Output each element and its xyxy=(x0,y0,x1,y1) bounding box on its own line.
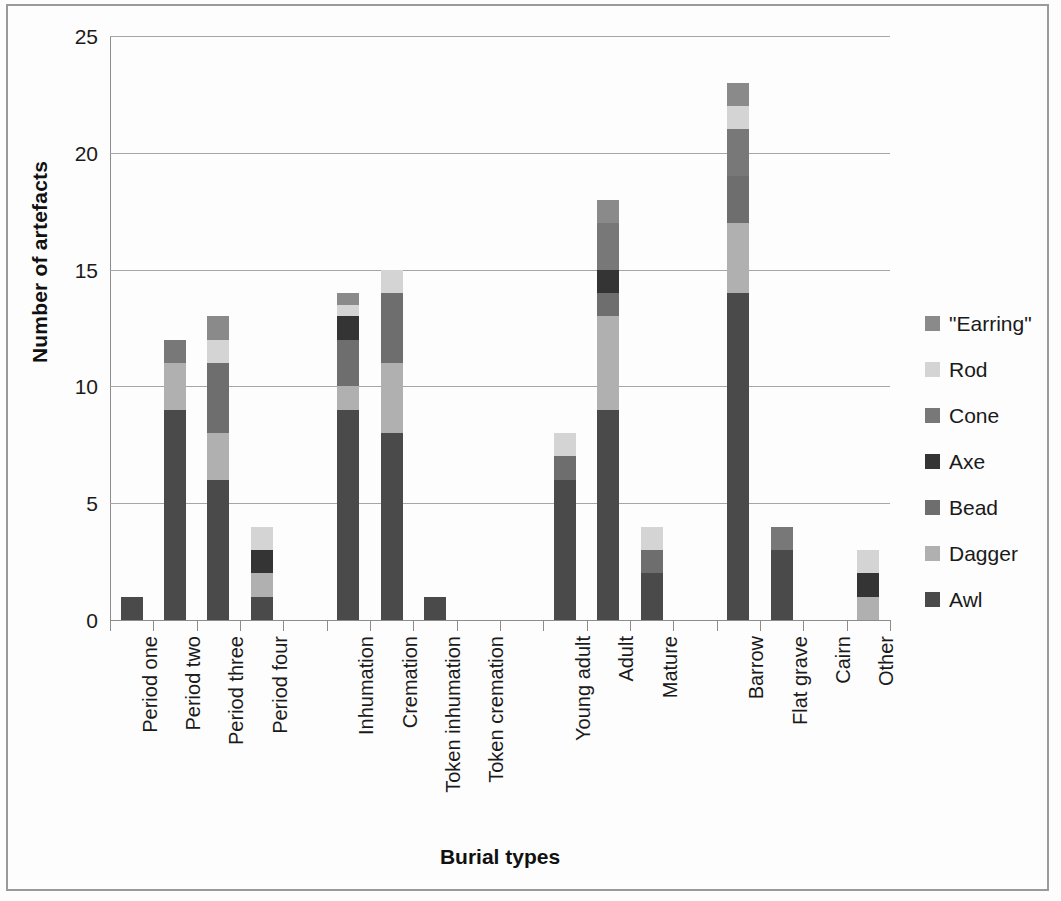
bar-segment-awl[interactable] xyxy=(121,597,143,620)
bar-segment-earring[interactable] xyxy=(597,200,619,223)
bar-segment-rod[interactable] xyxy=(727,106,749,129)
legend-item[interactable]: Cone xyxy=(925,392,1055,438)
bar-slot xyxy=(240,36,283,620)
y-tick-label: 25 xyxy=(52,26,98,47)
bar-segment-awl[interactable] xyxy=(641,573,663,620)
x-tick-mark xyxy=(587,621,588,631)
bar-segment-awl[interactable] xyxy=(424,597,446,620)
bar-stack[interactable] xyxy=(727,83,749,620)
x-tick-label: Cairn xyxy=(833,636,853,684)
legend-label: Axe xyxy=(949,451,985,472)
bar-segment-cone[interactable] xyxy=(597,223,619,270)
x-tick-mark xyxy=(803,621,804,631)
bar-segment-dagger[interactable] xyxy=(857,597,879,620)
bar-stack[interactable] xyxy=(554,433,576,620)
x-tick-mark xyxy=(327,621,328,631)
bar-segment-awl[interactable] xyxy=(337,410,359,620)
legend-swatch-icon xyxy=(925,454,940,469)
bar-segment-bead[interactable] xyxy=(727,176,749,223)
bar-stack[interactable] xyxy=(207,316,229,620)
bar-segment-dagger[interactable] xyxy=(164,363,186,410)
bar-segment-awl[interactable] xyxy=(727,293,749,620)
y-tick-label: 15 xyxy=(52,259,98,280)
bar-segment-awl[interactable] xyxy=(554,480,576,620)
legend-item[interactable]: "Earring" xyxy=(925,300,1055,346)
bar-segment-dagger[interactable] xyxy=(207,433,229,480)
bar-slot xyxy=(283,36,326,620)
chart-legend: "Earring"RodConeAxeBeadDaggerAwl xyxy=(925,300,1055,622)
x-tick-label: Period one xyxy=(140,636,160,733)
bar-segment-awl[interactable] xyxy=(597,410,619,620)
x-tick-label: Adult xyxy=(616,636,636,682)
bar-segment-cone[interactable] xyxy=(164,340,186,363)
bar-segment-dagger[interactable] xyxy=(337,386,359,409)
bar-segment-cone[interactable] xyxy=(727,129,749,176)
bar-segment-awl[interactable] xyxy=(207,480,229,620)
bar-stack[interactable] xyxy=(381,270,403,620)
y-tick-label: 10 xyxy=(52,376,98,397)
bar-slot xyxy=(717,36,760,620)
bar-segment-bead[interactable] xyxy=(381,293,403,363)
bar-segment-awl[interactable] xyxy=(381,433,403,620)
bar-segment-rod[interactable] xyxy=(641,527,663,550)
x-tick-label: Token cremation xyxy=(486,636,506,783)
legend-item[interactable]: Dagger xyxy=(925,530,1055,576)
bar-segment-dagger[interactable] xyxy=(727,223,749,293)
bar-segment-rod[interactable] xyxy=(251,527,273,550)
bar-segment-rod[interactable] xyxy=(337,305,359,317)
bar-segment-bead[interactable] xyxy=(207,363,229,433)
legend-label: Awl xyxy=(949,589,982,610)
x-tick-label: Period four xyxy=(270,636,290,734)
legend-item[interactable]: Awl xyxy=(925,576,1055,622)
bar-slot xyxy=(847,36,890,620)
legend-item[interactable]: Bead xyxy=(925,484,1055,530)
bar-slot xyxy=(587,36,630,620)
bar-segment-awl[interactable] xyxy=(164,410,186,620)
bar-stack[interactable] xyxy=(597,200,619,620)
bar-stack[interactable] xyxy=(641,527,663,620)
bar-segment-rod[interactable] xyxy=(381,270,403,293)
x-tick-mark xyxy=(543,621,544,631)
bar-segment-dagger[interactable] xyxy=(381,363,403,433)
bar-stack[interactable] xyxy=(424,597,446,620)
bar-segment-axe[interactable] xyxy=(337,316,359,339)
bar-segment-earring[interactable] xyxy=(207,316,229,339)
x-tick-mark xyxy=(283,621,284,631)
x-tick-label: Barrow xyxy=(746,636,766,699)
legend-swatch-icon xyxy=(925,408,940,423)
bar-segment-earring[interactable] xyxy=(337,293,359,305)
x-tick-label: Inhumation xyxy=(356,636,376,735)
bar-segment-axe[interactable] xyxy=(251,550,273,573)
bar-stack[interactable] xyxy=(121,597,143,620)
bar-segment-earring[interactable] xyxy=(727,83,749,106)
bar-segment-awl[interactable] xyxy=(771,550,793,620)
bar-segment-dagger[interactable] xyxy=(597,316,619,409)
bar-segment-cone[interactable] xyxy=(771,527,793,550)
bar-stack[interactable] xyxy=(771,527,793,620)
bar-segment-awl[interactable] xyxy=(251,597,273,620)
bar-segment-axe[interactable] xyxy=(857,573,879,596)
bar-segment-rod[interactable] xyxy=(554,433,576,456)
bar-segment-rod[interactable] xyxy=(857,550,879,573)
bar-stack[interactable] xyxy=(251,527,273,620)
bar-segment-bead[interactable] xyxy=(337,340,359,387)
y-axis-ticks: 0510152025 xyxy=(46,36,98,620)
bar-segment-bead[interactable] xyxy=(641,550,663,573)
legend-label: Dagger xyxy=(949,543,1018,564)
bar-segment-dagger[interactable] xyxy=(251,573,273,596)
bar-segment-bead[interactable] xyxy=(597,293,619,316)
x-tick-mark xyxy=(197,621,198,631)
bar-segment-axe[interactable] xyxy=(597,270,619,293)
legend-item[interactable]: Rod xyxy=(925,346,1055,392)
bar-segment-rod[interactable] xyxy=(207,340,229,363)
bar-stack[interactable] xyxy=(164,340,186,620)
bar-stack[interactable] xyxy=(857,550,879,620)
bar-segment-bead[interactable] xyxy=(554,456,576,479)
y-tick-label: 20 xyxy=(52,142,98,163)
bar-slot xyxy=(110,36,153,620)
bar-stack[interactable] xyxy=(337,293,359,620)
bar-slot xyxy=(153,36,196,620)
x-tick-mark xyxy=(717,621,718,631)
legend-item[interactable]: Axe xyxy=(925,438,1055,484)
x-tick-mark xyxy=(240,621,241,631)
